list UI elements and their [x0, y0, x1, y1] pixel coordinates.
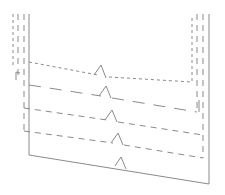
- level-marker-icon: [115, 157, 126, 169]
- level-marker-icon: [94, 65, 106, 78]
- level-1-line: [29, 62, 192, 82]
- layered-container-diagram: [0, 0, 225, 195]
- level-3-line: [24, 108, 203, 135]
- right-wall: [192, 14, 209, 184]
- level-2-line: [29, 85, 197, 112]
- level-4-line: [24, 131, 203, 158]
- level-marker-icon: [105, 110, 117, 122]
- bottom-line: [29, 155, 209, 184]
- left-wall: [13, 14, 29, 155]
